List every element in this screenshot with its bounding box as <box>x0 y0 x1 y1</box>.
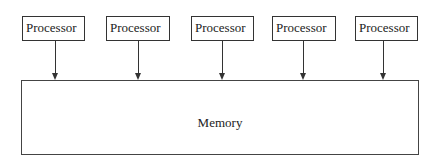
arrow-line <box>138 41 139 74</box>
memory-label: Memory <box>22 115 418 131</box>
memory-box: Memory <box>21 80 419 155</box>
arrow-down-icon <box>380 73 386 80</box>
processor-box-4: Processor <box>272 16 336 41</box>
processor-box-1: Processor <box>22 16 85 41</box>
arrow-down-icon <box>135 73 141 80</box>
arrow-line <box>383 41 384 74</box>
arrow-down-icon <box>52 73 58 80</box>
arrow-down-icon <box>300 73 306 80</box>
arrow-line <box>55 41 56 74</box>
processor-label: Processor <box>359 20 410 35</box>
processor-box-5: Processor <box>355 16 418 41</box>
arrow-down-icon <box>219 73 225 80</box>
processor-label: Processor <box>26 20 77 35</box>
processor-box-3: Processor <box>191 16 254 41</box>
processor-label: Processor <box>110 20 161 35</box>
arrow-line <box>222 41 223 74</box>
arrow-line <box>303 41 304 74</box>
processor-label: Processor <box>276 20 327 35</box>
processor-label: Processor <box>195 20 246 35</box>
processor-box-2: Processor <box>106 16 170 41</box>
